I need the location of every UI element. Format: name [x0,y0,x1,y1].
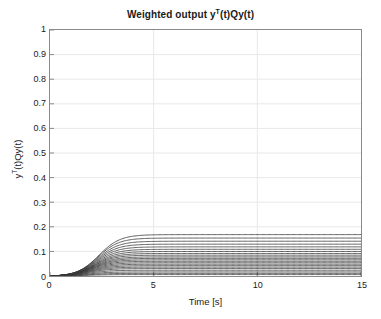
y-tick-label: 0.8 [0,74,46,84]
y-axis-title: yT(t)Qy(t) [11,109,23,209]
y-tick-label: 0.1 [0,247,46,257]
x-axis-title: Time [s] [49,296,362,307]
figure-canvas: Weighted output yT(t)Qy(t) 00.10.20.30.4… [0,0,381,319]
data-layer [50,30,361,276]
chart-title-suffix: (t)Qy(t) [220,9,254,20]
y-axis-title-suffix: (t)Qy(t) [12,140,23,170]
y-tick-label: 0 [0,272,46,282]
x-tick-label: 0 [46,280,51,290]
data-series-line [50,275,361,276]
y-axis-title-superscript: T [11,170,18,174]
chart-title: Weighted output yT(t)Qy(t) [0,8,381,20]
x-tick-label: 15 [357,280,367,290]
plot-area [49,29,362,277]
x-tick-label: 10 [253,280,263,290]
y-tick-label: 0.2 [0,222,46,232]
y-axis-title-prefix: y [12,174,23,179]
x-tick-label: 5 [151,280,156,290]
y-tick-label: 0.9 [0,49,46,59]
y-tick-label: 1 [0,24,46,34]
y-tick-label: 0.7 [0,98,46,108]
chart-title-prefix: Weighted output y [127,9,216,20]
